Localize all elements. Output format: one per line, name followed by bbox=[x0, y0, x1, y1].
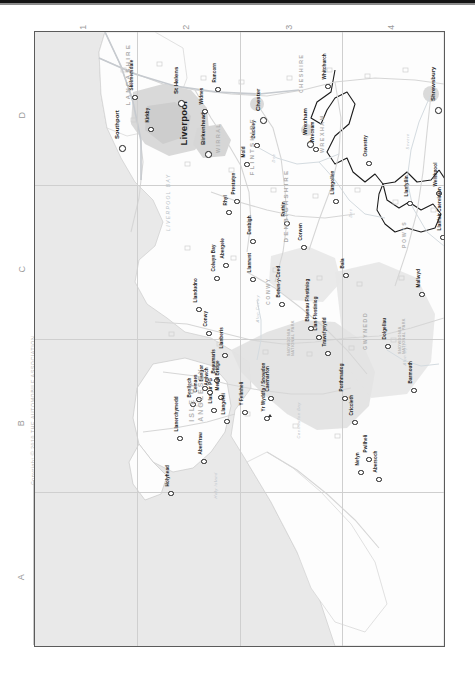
town-label-abergele[interactable]: Abergele bbox=[220, 238, 225, 258]
town-label-llangefni[interactable]: Llangefni bbox=[221, 393, 226, 414]
town-marker-birkenhead[interactable] bbox=[205, 151, 212, 158]
grid-row-D: D bbox=[17, 112, 27, 119]
town-label-corwen[interactable]: Corwen bbox=[298, 223, 303, 240]
town-label-dolgellau[interactable]: Dolgellau bbox=[382, 318, 387, 340]
town-marker-southport[interactable] bbox=[119, 145, 126, 152]
town-label-llanberis[interactable]: Llanberis bbox=[219, 327, 224, 348]
town-marker-chester[interactable] bbox=[260, 117, 267, 124]
town-marker-llanfair-caereinion[interactable] bbox=[440, 235, 445, 240]
grid-row-B: B bbox=[16, 420, 26, 427]
water-label-holy-island: Holy Island bbox=[213, 472, 218, 498]
mountain-peak-icon bbox=[268, 414, 272, 417]
town-label-welshpool[interactable]: Welshpool bbox=[433, 162, 438, 186]
grid-line-h3 bbox=[35, 492, 444, 493]
water-label-afon-conwy: Afon Conwy bbox=[255, 295, 260, 323]
town-label-blaenau-ffestiniog[interactable]: Blaenau Ffestiniog bbox=[305, 279, 310, 322]
park-label-snowdonia-1: SNOWDONIANATIONAL PARK bbox=[287, 320, 295, 356]
grid-line-h1 bbox=[35, 185, 444, 186]
town-marker-st-helens[interactable] bbox=[178, 100, 185, 107]
grid-col-4: 4 bbox=[386, 24, 396, 30]
town-label-pwllheli[interactable]: Pwllheli bbox=[363, 435, 368, 453]
water-label-liverpool-bay: LIVERPOOL BAY bbox=[165, 174, 171, 231]
town-label-southport[interactable]: Southport bbox=[114, 110, 120, 139]
town-label-conwy[interactable]: Conwy bbox=[203, 311, 208, 327]
grid-col-2: 2 bbox=[181, 24, 191, 30]
town-marker-shrewsbury[interactable] bbox=[435, 107, 442, 114]
water-label-caernarfon-bay: Caernarfon Bay bbox=[296, 402, 301, 438]
town-label-denbigh[interactable]: Denbigh bbox=[247, 215, 252, 234]
town-label-criccieth[interactable]: Criccieth bbox=[349, 395, 354, 416]
grid-row-C: C bbox=[17, 266, 27, 273]
county-label-wirral: WIRRAL bbox=[215, 123, 221, 153]
county-label-flintshire: FLINTSHIRE bbox=[248, 117, 255, 175]
town-label-chester[interactable]: Chester bbox=[255, 89, 261, 111]
city-label-liverpool[interactable]: Liverpool bbox=[178, 101, 189, 146]
town-label-birkenhead[interactable]: Birkenhead bbox=[200, 112, 206, 145]
grid-col-3: 3 bbox=[284, 24, 294, 30]
county-label-wrexham: WREXHAM bbox=[319, 114, 325, 153]
town-label-widnes[interactable]: Widnes bbox=[199, 88, 204, 105]
town-label-porthmadog[interactable]: Porthmadog bbox=[339, 363, 344, 391]
county-label-lancashire: LANCASHIRE bbox=[124, 43, 131, 106]
atlas-page: 1 2 3 4 D C B A Copyright © 2010 THE AUT… bbox=[0, 0, 475, 680]
town-label-llanerchymedd[interactable]: Llanerchymedd bbox=[174, 396, 179, 431]
town-label-llanrwst[interactable]: Llanrwst bbox=[247, 253, 252, 273]
county-label-gwynedd: GWYNEDD bbox=[362, 312, 368, 350]
town-label-barmouth[interactable]: Barmouth bbox=[408, 361, 413, 384]
town-label-betws-y-coed[interactable]: Betws-y-Coed bbox=[276, 266, 281, 298]
town-label-llangollen[interactable]: Llangollen bbox=[330, 171, 335, 195]
town-label-y-felinheli[interactable]: Y Felinheli bbox=[239, 382, 244, 406]
town-label-st-helens[interactable]: St Helens bbox=[173, 67, 179, 94]
town-label-holyhead[interactable]: Holyhead bbox=[165, 465, 170, 486]
town-label-kirkby[interactable]: Kirkby bbox=[145, 108, 150, 123]
town-label-bala[interactable]: Bala bbox=[340, 258, 345, 268]
town-label-mold[interactable]: Mold bbox=[241, 146, 246, 157]
town-label-nefyn[interactable]: Nefyn bbox=[355, 452, 360, 465]
town-label-whitchurch[interactable]: Whitchurch bbox=[322, 53, 327, 79]
grid-row-A: A bbox=[16, 574, 26, 581]
town-label-mallwyd[interactable]: Mallwyd bbox=[416, 269, 421, 288]
town-label-shrewsbury[interactable]: Shrewsbury bbox=[430, 67, 436, 101]
island-label-isle-of-anglesey: ISLE OFANGLESEY bbox=[188, 367, 206, 422]
town-label-abersoch[interactable]: Abersoch bbox=[373, 451, 378, 473]
town-label-colwyn-bay[interactable]: Colwyn Bay bbox=[211, 244, 216, 271]
town-label-wrexham[interactable]: Wrexham bbox=[302, 108, 308, 135]
town-label-wrecsam[interactable]: Wrecsam bbox=[310, 121, 315, 142]
grid-col-1: 1 bbox=[78, 24, 88, 30]
county-label-denbighshire: DENBIGHSHIRE bbox=[282, 169, 289, 243]
water-label-afon-dyfi: Afon Dyfi bbox=[402, 344, 407, 366]
map-frame[interactable]: LiverpoolSouthportSt HelensBirkenheadChe… bbox=[34, 31, 445, 647]
town-label-llanfair-caereinion[interactable]: Llanfair Caereinion bbox=[437, 187, 442, 231]
scan-top-trim-shadow bbox=[0, 3, 475, 5]
town-label-runcorn[interactable]: Runcorn bbox=[212, 63, 217, 83]
town-label-llan-ffestiniog[interactable]: Llan Ffestiniog bbox=[313, 296, 318, 330]
town-label-oswestry[interactable]: Oswestry bbox=[363, 135, 368, 156]
town-label-llanfyllin[interactable]: Llanfyllin bbox=[404, 175, 409, 196]
town-label-prestatyn[interactable]: Prestatyn bbox=[231, 173, 236, 195]
county-label-powys: POWYS bbox=[401, 221, 407, 248]
town-label-trawsfynydd[interactable]: Trawsfynydd bbox=[322, 317, 327, 346]
town-label-llandudno[interactable]: Llandudno bbox=[193, 278, 198, 302]
town-label-rhyl[interactable]: Rhyl bbox=[223, 195, 228, 205]
town-label-menai-bridge[interactable]: Menai Bridge bbox=[215, 360, 220, 390]
county-label-cheshire: CHESHIRE bbox=[298, 53, 304, 93]
water-label-severn: Severn bbox=[405, 133, 410, 149]
county-label-conwy: CONWY bbox=[265, 277, 271, 305]
water-label-dee: Dee bbox=[348, 208, 353, 217]
town-label-yr-wyddfa-snowdon[interactable]: Yr Wyddfa / Snowdon bbox=[261, 362, 266, 411]
water-label-dee: Dee bbox=[271, 153, 276, 162]
town-label-aberffraw[interactable]: Aberffraw bbox=[198, 432, 203, 454]
